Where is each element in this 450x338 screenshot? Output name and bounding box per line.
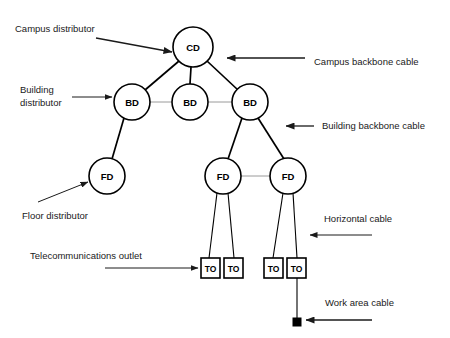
node-to3-label: TO: [268, 264, 280, 274]
node-to4[interactable]: TO: [287, 258, 306, 278]
node-fd1-label: FD: [101, 171, 114, 182]
label-work-area-cable: Work area cable: [325, 297, 394, 308]
label-campus-distributor: Campus distributor: [15, 23, 95, 34]
arrow-floor-distributor: [38, 182, 88, 202]
node-bd3[interactable]: BD: [232, 84, 268, 120]
node-to4-label: TO: [291, 264, 303, 274]
cable-bd3-fd3: [258, 118, 284, 159]
cable-fd2-to2: [228, 193, 234, 258]
node-to1[interactable]: TO: [201, 258, 220, 278]
node-fd3[interactable]: FD: [270, 158, 306, 194]
node-layer: CD BD BD BD FD FD: [89, 27, 306, 278]
label-building-distributor-line2: distributor: [20, 97, 62, 108]
node-fd1[interactable]: FD: [89, 158, 125, 194]
node-bd3-label: BD: [243, 97, 257, 108]
work-area-terminator: [293, 318, 301, 326]
node-to2-label: TO: [228, 264, 240, 274]
cable-fd2-to1: [209, 193, 217, 258]
arrow-campus-distributor: [96, 38, 172, 52]
cable-cd-bd3: [207, 61, 238, 90]
cable-cd-bd2: [190, 67, 191, 84]
node-to1-label: TO: [205, 264, 217, 274]
label-floor-distributor: Floor distributor: [22, 210, 88, 221]
node-bd2-label: BD: [183, 97, 197, 108]
network-topology-diagram: CD BD BD BD FD FD: [0, 0, 450, 338]
label-campus-backbone-cable: Campus backbone cable: [314, 56, 419, 67]
cable-cd-bd1: [145, 61, 179, 90]
cable-bd1-fd1: [112, 118, 124, 159]
node-cd-label: CD: [186, 42, 200, 53]
node-fd3-label: FD: [282, 171, 295, 182]
node-bd1[interactable]: BD: [114, 84, 150, 120]
node-cd[interactable]: CD: [173, 27, 213, 67]
label-telecommunications-outlet: Telecommunications outlet: [30, 250, 142, 261]
label-building-backbone-cable: Building backbone cable: [322, 120, 425, 131]
label-horizontal-cable: Horizontal cable: [324, 213, 392, 224]
cable-bd3-fd2: [228, 118, 242, 159]
diagram-canvas: CD BD BD BD FD FD: [0, 0, 450, 338]
node-fd2[interactable]: FD: [205, 158, 241, 194]
node-fd2-label: FD: [217, 171, 230, 182]
node-to2[interactable]: TO: [224, 258, 243, 278]
cable-fd3-to3: [273, 193, 283, 258]
node-bd2[interactable]: BD: [172, 84, 208, 120]
node-to3[interactable]: TO: [264, 258, 283, 278]
label-building-distributor-line1: Building: [20, 84, 54, 95]
cable-fd3-to4: [293, 193, 297, 258]
node-bd1-label: BD: [125, 97, 139, 108]
